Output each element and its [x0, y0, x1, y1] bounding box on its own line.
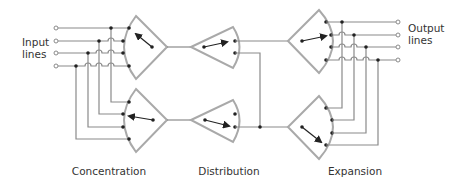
- input-label-line1: Input: [22, 36, 49, 48]
- expander-upper: [288, 10, 333, 73]
- input-label-line2: lines: [22, 48, 49, 60]
- distributor-upper: [191, 27, 240, 68]
- expander-lower: [288, 96, 334, 159]
- conc-dist-links: [167, 47, 191, 120]
- link-junction: [258, 125, 262, 129]
- dist-exp-links: [235, 41, 288, 127]
- input-lines: [58, 28, 129, 139]
- output-label-line1: Output: [408, 22, 444, 34]
- input-terminals: [54, 26, 58, 68]
- output-lines-label: Output lines: [408, 22, 444, 46]
- concentrator-upper: [121, 16, 167, 79]
- output-junctions: [340, 20, 380, 62]
- distributor-lower: [191, 100, 240, 142]
- input-lines-label: Input lines: [22, 36, 49, 60]
- output-terminals: [396, 20, 400, 62]
- input-junctions: [74, 26, 113, 68]
- concentrator-lower: [121, 89, 167, 152]
- stage-label-concentration: Concentration: [72, 165, 146, 177]
- stage-label-distribution: Distribution: [198, 165, 259, 177]
- diagram-canvas: [0, 0, 457, 185]
- output-label-line2: lines: [408, 34, 444, 46]
- output-lines: [326, 22, 396, 145]
- stage-label-expansion: Expansion: [328, 165, 382, 177]
